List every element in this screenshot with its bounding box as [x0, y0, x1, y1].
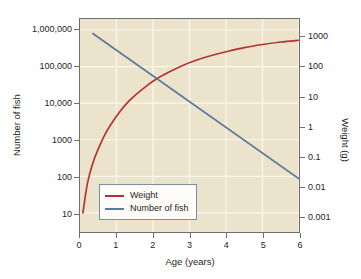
legend-item-weight: Weight [105, 189, 189, 202]
left-tick [74, 66, 79, 67]
y-axis-title-left: Number of fish [11, 94, 22, 156]
left-tick-label: 10,000 [44, 98, 72, 108]
x-tick-label: 2 [150, 240, 155, 250]
y-axis-title-right: Weight (g) [340, 118, 351, 162]
left-tick-label: 100 [57, 172, 72, 182]
right-tick-label: 1000 [308, 31, 328, 41]
left-tick [74, 140, 79, 141]
legend-label-number-of-fish: Number of fish [130, 204, 189, 213]
x-tick-label: 6 [297, 240, 302, 250]
legend-swatch-weight [105, 195, 124, 197]
x-tick-label: 1 [113, 240, 118, 250]
x-axis-title: Age (years) [165, 256, 214, 267]
right-tick-label: 1 [308, 122, 313, 132]
left-tick-label: 100,000 [39, 61, 72, 71]
left-tick [74, 29, 79, 30]
right-tick-label: 100 [308, 61, 323, 71]
right-tick [300, 217, 305, 218]
x-tick-label: 0 [76, 240, 81, 250]
left-tick [74, 103, 79, 104]
left-tick [74, 177, 79, 178]
legend-swatch-number-of-fish [105, 208, 124, 210]
x-tick-label: 4 [224, 240, 229, 250]
right-tick-label: 0.001 [308, 212, 331, 222]
bottom-tick [153, 233, 154, 238]
right-tick [300, 36, 305, 37]
right-tick-label: 0.1 [308, 152, 321, 162]
right-tick-label: 10 [308, 92, 318, 102]
left-tick-label: 1,000,000 [32, 24, 72, 34]
right-tick [300, 97, 305, 98]
x-tick-label: 3 [187, 240, 192, 250]
legend-label-weight: Weight [130, 191, 158, 200]
legend-item-number-of-fish: Number of fish [105, 202, 189, 215]
bottom-tick [300, 233, 301, 238]
right-tick-label: 0.01 [308, 182, 326, 192]
bottom-tick [116, 233, 117, 238]
x-tick-label: 5 [261, 240, 266, 250]
bottom-tick [263, 233, 264, 238]
bottom-tick [190, 233, 191, 238]
left-tick [74, 214, 79, 215]
chart-legend: Weight Number of fish [99, 184, 197, 220]
fish-growth-mortality-chart: 10100100010,000100,0001,000,000 10001001… [0, 0, 361, 279]
left-tick-label: 10 [62, 209, 72, 219]
right-tick [300, 66, 305, 67]
right-tick [300, 127, 305, 128]
right-tick [300, 187, 305, 188]
bottom-tick [226, 233, 227, 238]
right-tick [300, 157, 305, 158]
left-tick-label: 1000 [52, 135, 72, 145]
bottom-tick [79, 233, 80, 238]
